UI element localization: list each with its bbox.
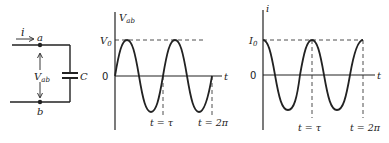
node-b-label: b [37, 106, 43, 117]
zero-label: 0 [102, 71, 108, 82]
y-axis-label: Vab [119, 12, 135, 25]
circuit [10, 37, 78, 103]
tau-label: t = τ [150, 117, 174, 128]
capacitor-label: C [80, 71, 88, 82]
t-axis-label: t [377, 70, 382, 81]
twopi-label: t = 2π [198, 117, 229, 128]
t-axis-label: t [224, 71, 229, 82]
voltage-label: Vab [34, 71, 50, 84]
voltage-plot: Vab V0 0 t t = τ t = 2π [100, 12, 229, 130]
zero-label: 0 [250, 70, 256, 81]
node-b-dot [38, 100, 42, 104]
node-a-label: a [37, 32, 43, 43]
current-plot: i I0 0 t t = τ t = 2π [248, 3, 382, 133]
y-axis-label: i [266, 3, 269, 14]
twopi-label: t = 2π [350, 122, 381, 133]
tau-label: t = τ [298, 122, 322, 133]
peak-label: I0 [248, 35, 258, 48]
diagram-canvas: i a b Vab C Vab V0 0 t t = τ t = 2π i I0… [0, 0, 389, 143]
current-label: i [21, 26, 25, 39]
node-a-dot [38, 43, 42, 47]
peak-label: V0 [100, 35, 112, 48]
